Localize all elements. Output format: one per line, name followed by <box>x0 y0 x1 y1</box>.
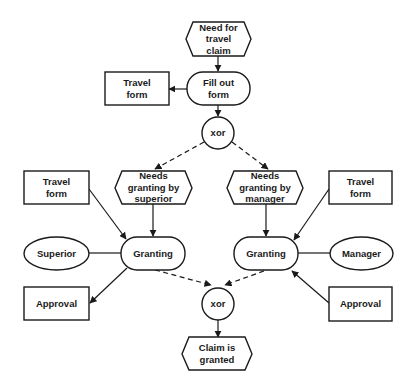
function-granting-left: Granting <box>121 237 185 270</box>
edge-xor-to-manager-event <box>232 142 268 169</box>
function-granting-right: Granting <box>234 237 298 270</box>
label-line: Needs <box>251 170 280 181</box>
event-needs-granting-manager: Needs granting by manager <box>227 170 303 204</box>
label-line: xor <box>211 298 226 309</box>
function-fill-out-form: Fill out form <box>187 72 250 105</box>
document-travel-form-right: Travel form <box>329 171 392 204</box>
label-line: xor <box>211 127 226 138</box>
event-claim-is-granted: Claim is granted <box>182 337 252 370</box>
label-line: Approval <box>36 298 77 309</box>
label-line: Travel <box>347 176 374 187</box>
epc-diagram: Need for travel claim Fill out form Trav… <box>0 0 414 391</box>
label-line: form <box>350 188 371 199</box>
label-line: Granting <box>133 248 173 259</box>
document-approval-right: Approval <box>329 287 392 321</box>
label-line: Superior <box>37 248 76 259</box>
label-line: manager <box>245 193 285 204</box>
label-line: Approval <box>340 298 381 309</box>
label-line: Manager <box>342 248 381 259</box>
label-line: Claim is <box>199 342 235 353</box>
edge-approval-right-to-granting <box>292 271 329 303</box>
label-line: Need for <box>199 22 238 33</box>
document-travel-form-top: Travel form <box>105 72 169 105</box>
label-line: travel <box>206 33 231 44</box>
label-line: Granting <box>246 248 286 259</box>
edge-xor-to-superior-event <box>155 142 204 169</box>
connector-xor-join: xor <box>202 288 234 320</box>
document-approval-left: Approval <box>24 287 89 320</box>
label-line: form <box>208 89 229 100</box>
label-line: granting by <box>128 182 180 193</box>
label-line: Fill out <box>203 77 235 88</box>
event-need-for-travel-claim: Need for travel claim <box>186 22 251 56</box>
label-line: granted <box>200 354 235 365</box>
label-line: Travel <box>123 77 150 88</box>
label-line: Needs <box>139 170 168 181</box>
label-line: form <box>46 188 67 199</box>
organization-superior: Superior <box>24 237 89 270</box>
edge-granting-left-to-xor <box>155 270 211 285</box>
document-travel-form-left: Travel form <box>24 171 89 204</box>
label-line: granting by <box>239 182 291 193</box>
organization-manager: Manager <box>330 237 393 270</box>
connector-xor-split: xor <box>202 117 234 149</box>
label-line: Travel <box>43 176 70 187</box>
label-line: superior <box>134 193 172 204</box>
label-line: claim <box>206 45 230 56</box>
event-needs-granting-superior: Needs granting by superior <box>115 170 192 204</box>
edge-granting-to-approval-left <box>90 268 127 303</box>
edge-granting-right-to-xor <box>225 271 264 285</box>
label-line: form <box>126 89 147 100</box>
